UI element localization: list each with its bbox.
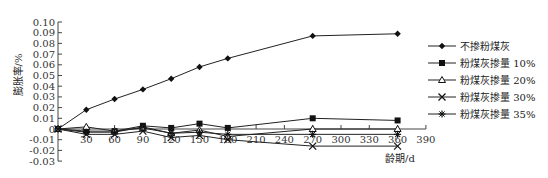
y-tick-label: 0.08	[33, 38, 55, 49]
axes: 0.100.090.080.070.060.050.040.030.020.01…	[29, 17, 435, 167]
data-point-triangle	[83, 123, 90, 129]
data-point-square	[439, 60, 445, 66]
data-point-asterisk	[168, 130, 175, 137]
data-point-asterisk	[139, 123, 146, 130]
y-axis-label: 膨胀率/%	[12, 54, 24, 97]
y-tick-label: -0.01	[29, 134, 55, 145]
data-point-diamond	[225, 55, 231, 61]
legend-item: 粉煤灰掺量 35%	[428, 108, 535, 120]
data-point-diamond	[439, 43, 445, 49]
data-point-asterisk	[196, 129, 203, 136]
y-tick-label: 0.06	[33, 59, 55, 70]
legend-item: 粉煤灰掺量 30%	[428, 91, 535, 103]
x-tick-label: 390	[416, 134, 435, 145]
y-tick-label: 0	[49, 124, 55, 135]
data-point-asterisk	[439, 111, 446, 118]
legend: 不掺粉煤灰粉煤灰掺量 10%粉煤灰掺量 20%粉煤灰掺量 30%粉煤灰掺量 35…	[428, 40, 535, 120]
y-tick-label: 0.10	[33, 17, 55, 28]
data-point-square	[310, 115, 316, 121]
y-tick-label: 0.07	[33, 49, 55, 60]
data-point-diamond	[394, 31, 400, 37]
legend-label: 不掺粉煤灰	[460, 40, 510, 52]
y-tick-label: 0.03	[33, 91, 55, 102]
y-tick-label: -0.02	[29, 145, 55, 156]
data-point-diamond	[196, 64, 202, 70]
y-tick-label: 0.02	[33, 102, 55, 113]
data-point-asterisk	[55, 126, 62, 133]
data-point-diamond	[310, 33, 316, 39]
data-point-asterisk	[394, 131, 401, 138]
x-tick-label: 330	[360, 134, 379, 145]
legend-label: 粉煤灰掺量 20%	[460, 74, 535, 86]
data-point-square	[395, 117, 401, 123]
legend-label: 粉煤灰掺量 10%	[460, 57, 535, 69]
expansion-rate-chart: 0.100.090.080.070.060.050.040.030.020.01…	[0, 0, 548, 178]
legend-item: 粉煤灰掺量 20%	[428, 74, 535, 86]
data-point-diamond	[111, 96, 117, 102]
legend-label: 粉煤灰掺量 30%	[460, 91, 535, 103]
data-point-square	[225, 125, 231, 131]
y-tick-label: 0.05	[33, 70, 55, 81]
series-1	[55, 31, 401, 133]
x-tick-label: 210	[247, 134, 266, 145]
legend-label: 粉煤灰掺量 35%	[460, 108, 535, 120]
y-tick-label: 0.01	[33, 113, 55, 124]
x-tick-label: 90	[137, 134, 150, 145]
x-tick-label: 300	[331, 134, 350, 145]
legend-item: 粉煤灰掺量 10%	[428, 57, 535, 69]
series-group	[55, 31, 402, 150]
data-point-asterisk	[83, 129, 90, 136]
x-axis-label: 龄期/d	[385, 152, 415, 164]
data-point-diamond	[168, 76, 174, 82]
data-point-asterisk	[309, 131, 316, 138]
y-tick-label: -0.03	[29, 156, 55, 167]
data-point-diamond	[140, 86, 146, 92]
y-tick-label: 0.04	[33, 81, 55, 92]
data-point-diamond	[83, 107, 89, 113]
legend-item: 不掺粉煤灰	[428, 40, 510, 52]
data-point-asterisk	[111, 129, 118, 136]
y-tick-label: 0.09	[33, 27, 55, 38]
data-point-asterisk	[224, 131, 231, 138]
series-line	[58, 34, 398, 129]
